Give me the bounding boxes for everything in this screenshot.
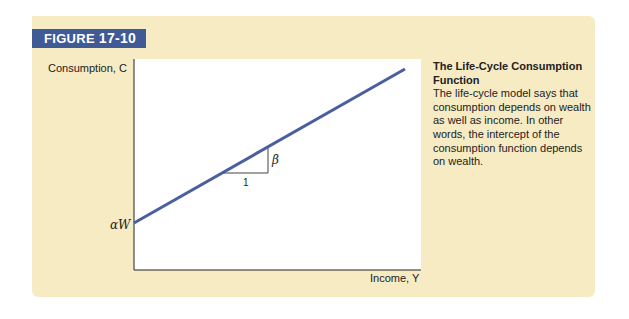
caption-body: The life-cycle model says that consumpti… [433, 87, 591, 167]
consumption-line [134, 69, 405, 223]
run-label: 1 [243, 177, 249, 188]
slope-label: β [272, 153, 279, 167]
caption: The Life-Cycle Consumption Function The … [433, 60, 593, 169]
intercept-label: αW [110, 218, 130, 232]
x-axis-label: Income, Y [370, 272, 419, 284]
caption-title: The Life-Cycle Consumption Function [433, 60, 593, 87]
